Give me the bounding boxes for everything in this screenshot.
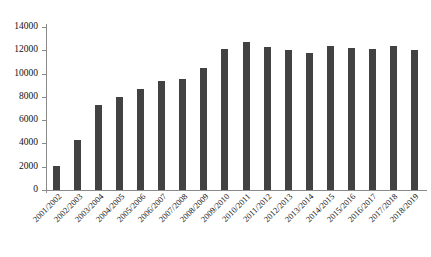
bar-slot [341, 27, 362, 190]
bar-slot [67, 27, 88, 190]
bar-slot [130, 27, 151, 190]
bar [348, 48, 355, 190]
bar-slot [151, 27, 172, 190]
bar-slot [257, 27, 278, 190]
y-axis-tick-label: 4000 [0, 138, 38, 148]
bar-chart: 02000400060008000100001200014000 2001/20… [0, 0, 431, 257]
bar [390, 46, 397, 190]
bar [327, 46, 334, 190]
y-axis-tick-label: 12000 [0, 45, 38, 55]
bar [285, 50, 292, 190]
bar [369, 49, 376, 190]
bar [74, 140, 81, 190]
bar-slot [299, 27, 320, 190]
y-axis-tick-label: 10000 [0, 69, 38, 79]
bar-slot [278, 27, 299, 190]
bar-slot [362, 27, 383, 190]
bar-slot [404, 27, 425, 190]
bar [158, 81, 165, 190]
bar [137, 89, 144, 190]
bar-slot [236, 27, 257, 190]
x-axis: 2001/20022002/20032003/20042004/20052005… [46, 192, 425, 254]
bar-slot [193, 27, 214, 190]
bar-slot [320, 27, 341, 190]
bar-slot [46, 27, 67, 190]
y-axis-tick-label: 2000 [0, 162, 38, 172]
bar-slot [172, 27, 193, 190]
bar [95, 105, 102, 190]
y-axis-tick-label: 14000 [0, 22, 38, 32]
y-axis-tick-label: 8000 [0, 92, 38, 102]
bar [243, 42, 250, 190]
bar [116, 97, 123, 190]
bar [264, 47, 271, 190]
bar [200, 68, 207, 190]
bar-slot [88, 27, 109, 190]
y-axis-tick-label: 0 [0, 185, 38, 195]
bar-slot [214, 27, 235, 190]
bar [306, 53, 313, 190]
bar-slot [383, 27, 404, 190]
bar-series [46, 27, 425, 190]
bar [221, 49, 228, 190]
bar [53, 166, 60, 190]
y-axis-tick-label: 6000 [0, 115, 38, 125]
bar [411, 50, 418, 190]
bar-slot [109, 27, 130, 190]
bar [179, 79, 186, 190]
